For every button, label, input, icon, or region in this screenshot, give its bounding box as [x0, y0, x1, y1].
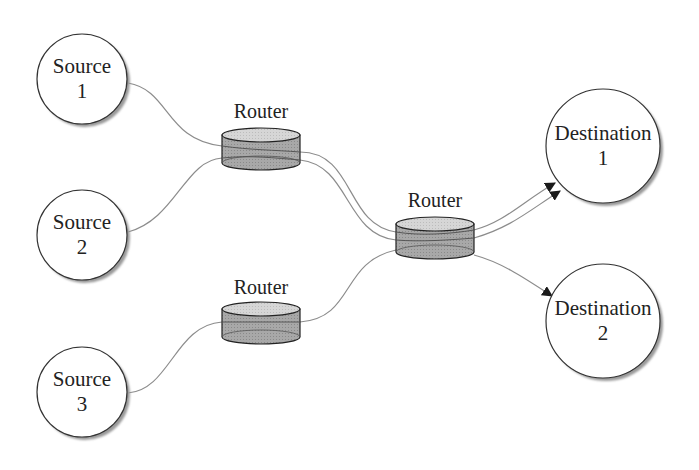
source-1-title: Source	[53, 54, 111, 79]
link-source1-router-top	[128, 83, 222, 146]
source-3-number: 3	[53, 392, 111, 417]
destination-1-label: Destination 1	[555, 121, 652, 171]
router-top-label: Router	[234, 100, 288, 122]
router-bottom-icon	[222, 302, 300, 344]
source-3-label: Source 3	[53, 367, 111, 417]
source-2-label: Source 2	[53, 210, 111, 260]
source-2-number: 2	[53, 235, 111, 260]
link-source2-router-top	[128, 158, 222, 232]
source-1-number: 1	[53, 79, 111, 104]
link-source3-router-bottom	[128, 322, 222, 393]
router-middle-label: Router	[408, 189, 462, 211]
source-2-title: Source	[53, 210, 111, 235]
link-router-middle-destination2	[474, 255, 552, 296]
destination-1-number: 1	[555, 146, 652, 171]
router-bottom-label: Router	[234, 276, 288, 298]
link-router-bottom-router-middle	[300, 250, 396, 322]
link-router-middle-destination1-b	[474, 191, 560, 238]
link-router-middle-destination1-a	[474, 183, 555, 230]
destination-1-title: Destination	[555, 121, 652, 146]
source-1-label: Source 1	[53, 54, 111, 104]
source-3-title: Source	[53, 367, 111, 392]
router-middle-icon	[396, 217, 474, 259]
destination-2-number: 2	[555, 321, 652, 346]
destination-2-label: Destination 2	[555, 296, 652, 346]
destination-2-title: Destination	[555, 296, 652, 321]
router-top-icon	[222, 128, 300, 170]
links	[128, 83, 560, 393]
